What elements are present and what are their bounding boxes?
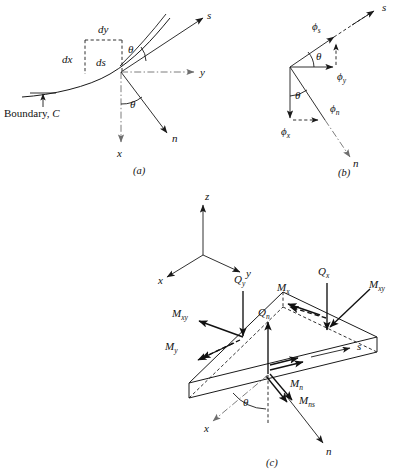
- theta-upper-label-b: θ: [316, 50, 322, 62]
- figure-canvas: Boundary, C dy dx ds s θ y x n θ (a): [0, 0, 403, 476]
- triad-y-label: y: [245, 267, 251, 279]
- theta-lower-label-b: θ: [295, 89, 301, 101]
- theta-lower-label-a: θ: [130, 98, 136, 110]
- axis-n-label-c: n: [326, 445, 332, 457]
- technical-figure: Boundary, C dy dx ds s θ y x n θ (a): [0, 0, 403, 476]
- axis-s-label-b: s: [382, 1, 386, 13]
- theta-upper-label-a: θ: [128, 43, 134, 55]
- triad-z-label: z: [204, 190, 210, 202]
- axis-x-label-a: x: [116, 147, 122, 159]
- axis-s-label-c: s: [357, 340, 361, 352]
- caption-b: (b): [338, 167, 351, 179]
- axis-s-label-a: s: [207, 9, 211, 21]
- ds-label: ds: [96, 56, 106, 68]
- axis-y-label-a: y: [199, 66, 205, 78]
- axis-n-label-a: n: [172, 132, 178, 144]
- axis-n-label-b: n: [353, 157, 359, 169]
- theta-label-c: θ: [243, 396, 249, 408]
- boundary-label: Boundary, C: [4, 107, 60, 119]
- axis-x-label-c: x: [203, 422, 209, 434]
- triad-x-label: x: [157, 274, 163, 286]
- dy-label: dy: [98, 23, 109, 35]
- caption-a: (a): [133, 165, 146, 177]
- dx-label: dx: [62, 53, 73, 65]
- caption-c: (c): [266, 457, 278, 469]
